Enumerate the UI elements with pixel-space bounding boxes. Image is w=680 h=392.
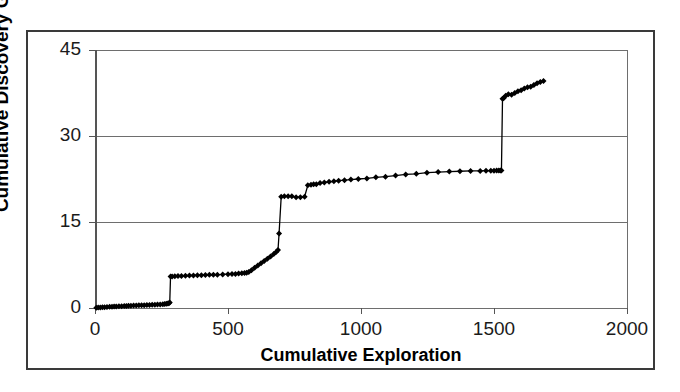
data-point-marker <box>326 179 332 185</box>
data-point-marker <box>336 178 342 184</box>
data-point-marker <box>342 177 348 183</box>
data-point-marker <box>413 171 419 177</box>
x-axis-title: Cumulative Exploration <box>95 345 627 366</box>
data-point-marker <box>403 171 409 177</box>
chart-page: Cumulative Discovery Gb 0153045050010001… <box>0 0 680 392</box>
data-point-marker <box>289 193 295 199</box>
data-point-marker <box>373 174 379 180</box>
data-point-marker <box>468 168 474 174</box>
data-point-marker <box>348 177 354 183</box>
data-series-layer <box>0 0 680 392</box>
data-point-marker <box>393 173 399 179</box>
data-point-marker <box>424 170 430 176</box>
data-point-marker <box>435 169 441 175</box>
series-line <box>96 81 543 308</box>
data-point-marker <box>321 179 327 185</box>
data-point-marker <box>355 176 361 182</box>
data-point-marker <box>302 194 308 200</box>
data-point-marker <box>457 168 463 174</box>
data-point-marker <box>477 168 483 174</box>
data-point-marker <box>331 178 337 184</box>
data-point-marker <box>214 272 220 278</box>
data-point-marker <box>276 230 282 236</box>
data-point-marker <box>220 271 226 277</box>
data-point-marker <box>446 169 452 175</box>
data-point-marker <box>364 175 370 181</box>
data-point-marker <box>382 174 388 180</box>
